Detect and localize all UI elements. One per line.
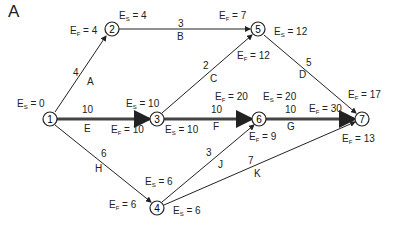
es-node-3-out: ES = 10 (165, 125, 198, 136)
ef-node-2: EF = 4 (70, 26, 97, 37)
node-1: 1 (43, 112, 57, 126)
duration-d: 5 (306, 58, 312, 68)
duration-b: 3 (178, 19, 184, 29)
activity-f: F (213, 122, 219, 132)
svg-text:5: 5 (255, 24, 261, 35)
svg-text:6: 6 (256, 114, 262, 125)
svg-text:7: 7 (359, 114, 365, 125)
es-node-6: ES = 20 (263, 92, 296, 103)
duration-j: 3 (206, 148, 212, 158)
duration-a: 4 (73, 68, 79, 78)
ef-node-7-via-k: EF = 13 (342, 134, 375, 145)
activity-k: K (254, 169, 261, 179)
ef-node-6: EF = 20 (215, 92, 248, 103)
duration-c: 2 (203, 61, 209, 71)
es-node-5: ES = 12 (274, 27, 307, 38)
svg-text:2: 2 (109, 24, 115, 35)
svg-text:4: 4 (154, 203, 160, 214)
es-node-3: ES = 10 (126, 99, 159, 110)
activity-a: A (87, 77, 94, 87)
activity-e: E (84, 124, 91, 134)
ef-node-4: EF = 6 (109, 200, 136, 211)
ef-node-5: EF = 7 (219, 11, 246, 22)
svg-text:3: 3 (154, 114, 160, 125)
ef-node-5-via-c: EF = 12 (237, 51, 270, 62)
node-4: 4 (150, 201, 164, 215)
edge-a (55, 36, 106, 112)
node-2: 2 (105, 22, 119, 36)
node-7: 7 (355, 112, 369, 126)
activity-g: G (287, 122, 295, 132)
activity-d: D (299, 70, 306, 80)
ef-node-3: EF = 10 (111, 125, 144, 136)
activity-j: J (218, 160, 223, 170)
node-6: 6 (252, 112, 266, 126)
es-node-4-out: ES = 6 (173, 206, 201, 217)
node-3: 3 (150, 112, 164, 126)
activity-h: H (95, 164, 102, 174)
edge-h (55, 125, 151, 202)
ef-node-6-via-j: EF = 9 (249, 132, 276, 143)
duration-f: 10 (211, 105, 222, 115)
network-diagram: 1 2 3 4 5 6 7 (0, 0, 395, 234)
activity-c: C (210, 74, 217, 84)
node-5: 5 (251, 22, 265, 36)
duration-h: 6 (101, 149, 107, 159)
ef-node-7-via-d: EF = 17 (348, 90, 381, 101)
duration-e: 10 (82, 105, 93, 115)
es-node-1: ES = 0 (17, 99, 45, 110)
duration-g: 10 (285, 105, 296, 115)
es-node-4-in: ES = 6 (145, 177, 173, 188)
activity-b: B (177, 32, 184, 42)
edge-j (162, 125, 254, 202)
svg-text:1: 1 (47, 114, 53, 125)
es-node-2: ES = 4 (119, 11, 147, 22)
duration-k: 7 (248, 156, 254, 166)
ef-node-7: EF = 30 (309, 104, 342, 115)
